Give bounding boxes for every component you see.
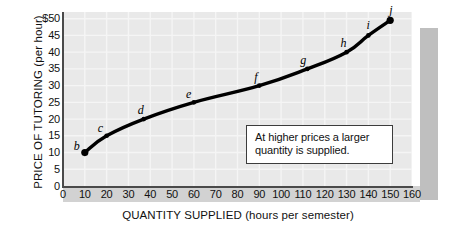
point-label-g: g	[300, 54, 306, 66]
y-tick-label: 15	[0, 130, 60, 141]
y-tick-label: 25	[0, 97, 60, 108]
y-tick-label: 30	[0, 80, 60, 91]
point-label-i: i	[366, 19, 369, 31]
supply-curve-figure: $50454035302520151050 010203040506070809…	[0, 0, 461, 232]
y-tick-label: 10	[0, 147, 60, 158]
y-axis-title: PRICE OF TUTORING (per hour)	[32, 12, 44, 192]
point-label-j: j	[389, 4, 392, 16]
point-label-f: f	[254, 71, 257, 83]
y-tick-label: 40	[0, 47, 60, 58]
y-tick-label: $50	[0, 13, 60, 24]
y-tick-label: 5	[0, 164, 60, 175]
annotation-callout: At higher prices a larger quantity is su…	[246, 125, 393, 164]
callout-line-1: At higher prices a larger	[255, 131, 385, 144]
point-label-b: b	[74, 140, 80, 152]
point-label-c: c	[98, 122, 103, 134]
point-label-d: d	[138, 104, 144, 116]
y-tick-label: 35	[0, 63, 60, 74]
callout-line-2: quantity is supplied.	[255, 144, 385, 157]
y-axis-line	[62, 12, 64, 187]
y-axis-title-wrap: PRICE OF TUTORING (per hour)	[10, 10, 28, 185]
x-tick-label: 160	[399, 188, 425, 201]
x-axis-title: QUANTITY SUPPLIED (hours per semester)	[63, 209, 413, 221]
point-label-e: e	[186, 88, 191, 100]
figure-drop-shadow	[420, 28, 438, 200]
point-label-h: h	[341, 37, 347, 49]
y-tick-label: 45	[0, 30, 60, 41]
y-tick-label: 20	[0, 114, 60, 125]
x-axis-tick-labels: 0102030405060708090100110120130140150160	[0, 188, 461, 204]
